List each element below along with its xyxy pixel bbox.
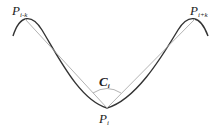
curvature-diagram: Pi-k Pi+k Ci Pi	[0, 0, 220, 126]
label-p-left: Pi-k	[11, 3, 28, 19]
label-p-center: Pi	[98, 111, 109, 126]
chord-left	[25, 19, 107, 108]
chord-right	[107, 19, 195, 108]
curve	[13, 19, 208, 108]
label-angle: Ci	[99, 74, 110, 90]
label-p-right: Pi+k	[189, 3, 209, 19]
